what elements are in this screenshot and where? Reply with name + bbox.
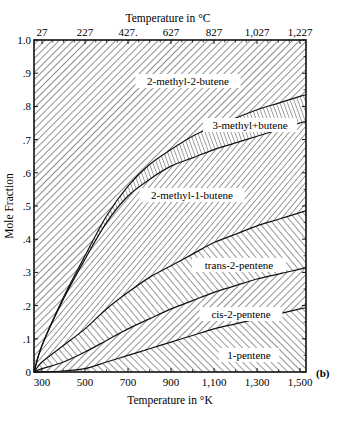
x-tick-label: 1,300 — [245, 376, 270, 388]
region-label-2-methyl-2-butene: 2-methyl-2-butene — [147, 75, 229, 87]
y-tick-label: 0 — [26, 366, 32, 378]
x-tick-label: 700 — [120, 376, 137, 388]
x2-tick-label: 427. — [118, 26, 138, 38]
panel-label: (b) — [316, 367, 330, 380]
x2-tick-label: 1,027 — [245, 26, 270, 38]
y-tick-label: .1 — [23, 333, 31, 345]
y-tick-label: .2 — [23, 300, 31, 312]
x-tick-label: 500 — [77, 376, 94, 388]
region-label-2-methyl-1-butene: 2-methyl-1-butene — [151, 189, 233, 201]
stacked-regions — [34, 40, 306, 372]
chart-svg: 2-methyl-2-butene3-methyl+butene2-methyl… — [0, 0, 343, 424]
region-label-cis-2-pentene: cis-2-pentene — [211, 308, 270, 320]
x2-tick-label: 627 — [163, 26, 180, 38]
region-label-trans-2-pentene: trans-2-pentene — [205, 259, 274, 271]
y-tick-label: .8 — [23, 100, 32, 112]
x-tick-label: 900 — [163, 376, 180, 388]
y-tick-label: .7 — [23, 134, 32, 146]
y-tick-label: .6 — [23, 167, 32, 179]
x2-tick-label: 27 — [37, 26, 49, 38]
x-axis-title: Temperature in °K — [127, 394, 213, 407]
y-tick-label: .3 — [23, 266, 32, 278]
x-tick-label: 1,500 — [288, 376, 313, 388]
x-tick-label: 300 — [34, 376, 51, 388]
region-label-1-pentene: 1-pentene — [227, 349, 270, 361]
x2-tick-label: 227 — [77, 26, 94, 38]
x2-tick-label: 1,227 — [288, 26, 313, 38]
region-label-3-methyl-1-butene: 3-methyl+butene — [212, 119, 287, 131]
x2-tick-label: 827 — [206, 26, 223, 38]
y-tick-label: .9 — [23, 67, 32, 79]
y-tick-label: .4 — [23, 233, 32, 245]
y-axis-title: Mole Fraction — [3, 173, 15, 239]
x-tick-label: 1,100 — [202, 376, 227, 388]
x2-axis-title: Temperature in °C — [126, 12, 211, 25]
y-tick-label: .5 — [23, 200, 32, 212]
y-tick-label: 1.0 — [17, 34, 31, 46]
